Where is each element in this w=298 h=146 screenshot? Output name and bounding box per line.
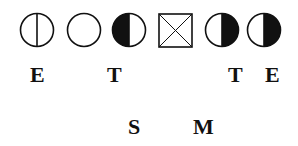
label-t-left: T (107, 64, 122, 86)
circle-vertical-line-icon (21, 14, 54, 47)
circle-right-half-filled-icon (248, 14, 281, 47)
square-crossed-icon (159, 14, 192, 47)
circle-left-half-filled-icon (113, 14, 146, 47)
label-e-right: E (265, 64, 280, 86)
label-m: M (193, 116, 214, 138)
circle-right-half-filled-icon (206, 14, 239, 47)
circle-empty-icon (68, 14, 101, 47)
label-t-right: T (228, 64, 243, 86)
label-e-left: E (30, 64, 45, 86)
symbol-diagram (0, 0, 298, 146)
label-s: S (128, 116, 140, 138)
